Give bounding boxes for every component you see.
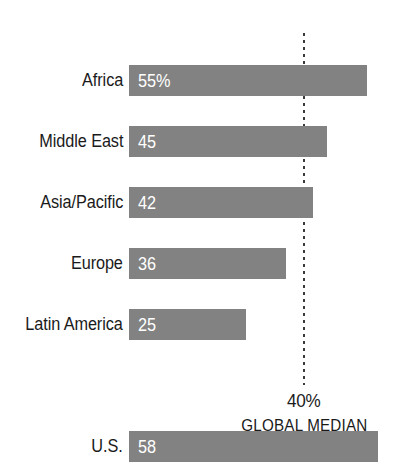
bar-row: Asia/Pacific42 bbox=[0, 187, 406, 218]
category-label: Asia/Pacific bbox=[40, 187, 123, 218]
category-label: Europe bbox=[71, 248, 123, 279]
bar-chart: Africa55%Middle East45Asia/Pacific42Euro… bbox=[0, 0, 406, 464]
bar-row: Latin America25 bbox=[0, 309, 406, 340]
bar-value-label: 25 bbox=[138, 309, 156, 340]
global-median-title-text: GLOBAL MEDIAN bbox=[241, 417, 367, 435]
bar-value-label: 36 bbox=[138, 248, 156, 279]
bar: 58 bbox=[129, 431, 378, 462]
category-label: Middle East bbox=[39, 126, 123, 157]
category-label: Africa bbox=[82, 65, 123, 96]
bar-row: Africa55% bbox=[0, 65, 406, 96]
bar: 45 bbox=[129, 126, 327, 157]
bar-value-label: 55% bbox=[138, 65, 170, 96]
category-label: Latin America bbox=[26, 309, 123, 340]
bar-row: Middle East45 bbox=[0, 126, 406, 157]
bar-row: Europe36 bbox=[0, 248, 406, 279]
bar: 42 bbox=[129, 187, 313, 218]
global-median-value-caption: 40% bbox=[0, 391, 406, 412]
global-median-value-text: 40% bbox=[287, 391, 321, 412]
bar-value-label: 45 bbox=[138, 126, 156, 157]
category-label: U.S. bbox=[92, 431, 123, 462]
bar: 55% bbox=[129, 65, 367, 96]
bar-value-label: 42 bbox=[138, 187, 156, 218]
bar-value-label: 58 bbox=[138, 431, 156, 462]
global-median-title-caption: GLOBAL MEDIAN bbox=[0, 417, 406, 435]
bar-row: U.S.58 bbox=[0, 431, 406, 462]
bar: 25 bbox=[129, 309, 246, 340]
bar: 36 bbox=[129, 248, 286, 279]
